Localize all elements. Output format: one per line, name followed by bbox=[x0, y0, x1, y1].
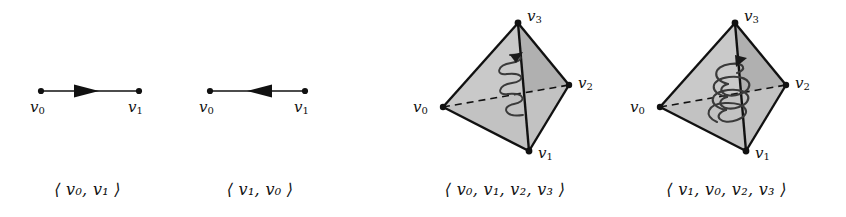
arrowhead-right-icon bbox=[74, 85, 99, 98]
vertex-dot-v0 bbox=[440, 104, 446, 110]
vertex-dot-v1 bbox=[302, 88, 308, 94]
panel-tetrahedron-left: v3 v2 v0 v1 ⟨ v₀, v₁, v₂, v₃ ⟩ bbox=[390, 0, 620, 217]
vertex-dot-v1 bbox=[136, 88, 142, 94]
vertex-label-v0: v0 bbox=[630, 98, 645, 116]
caption-edge-backward: ⟨ v₁, v₀ ⟩ bbox=[175, 180, 345, 199]
oriented-simplices-figure: v0 v1 ⟨ v₀, v₁ ⟩ v0 v1 ⟨ v₁, v₀ ⟩ bbox=[0, 0, 846, 217]
vertex-label-v0: v0 bbox=[199, 98, 214, 116]
vertex-dot-v1 bbox=[743, 148, 750, 155]
vertex-dot-v0 bbox=[207, 88, 213, 94]
vertex-dot-v1 bbox=[526, 148, 533, 155]
vertex-dot-v0 bbox=[657, 104, 663, 110]
vertex-label-v2: v2 bbox=[795, 74, 810, 92]
vertex-label-v1: v1 bbox=[128, 98, 143, 116]
vertex-dot-v0 bbox=[38, 88, 44, 94]
panel-edge-forward: v0 v1 ⟨ v₀, v₁ ⟩ bbox=[0, 0, 175, 217]
vertex-label-v0: v0 bbox=[413, 98, 428, 116]
panel-tetrahedron-right: v3 v2 v0 v1 ⟨ v₁, v₀, v₂, v₃ ⟩ bbox=[607, 0, 846, 217]
panel-edge-backward: v0 v1 ⟨ v₁, v₀ ⟩ bbox=[175, 0, 345, 217]
vertex-label-v3: v3 bbox=[527, 7, 542, 25]
vertex-label-v0: v0 bbox=[30, 98, 45, 116]
arrowhead-left-icon bbox=[247, 85, 272, 98]
caption-tetrahedron-right: ⟨ v₁, v₀, v₂, v₃ ⟩ bbox=[607, 180, 846, 199]
vertex-dot-v3 bbox=[515, 20, 522, 27]
vertex-dot-v3 bbox=[732, 20, 739, 27]
vertex-label-v2: v2 bbox=[578, 74, 593, 92]
vertex-label-v1: v1 bbox=[755, 144, 770, 162]
vertex-label-v1: v1 bbox=[538, 144, 553, 162]
vertex-label-v3: v3 bbox=[744, 7, 759, 25]
vertex-dot-v2 bbox=[566, 82, 572, 88]
caption-tetrahedron-left: ⟨ v₀, v₁, v₂, v₃ ⟩ bbox=[390, 180, 620, 199]
vertex-dot-v2 bbox=[783, 82, 789, 88]
caption-edge-forward: ⟨ v₀, v₁ ⟩ bbox=[0, 180, 175, 199]
vertex-label-v1: v1 bbox=[294, 98, 309, 116]
